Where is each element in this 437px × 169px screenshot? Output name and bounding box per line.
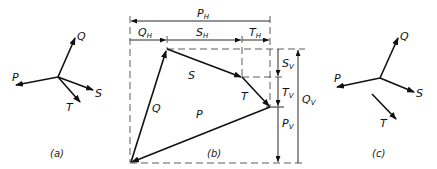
polygon-s-vector: [167, 49, 241, 77]
label-q: Q: [77, 30, 86, 43]
label-sv: SV: [282, 57, 295, 71]
label-ph: PH: [197, 7, 210, 21]
polygon-label-s: S: [188, 69, 195, 82]
label-sh: SH: [196, 26, 209, 40]
force-s-vector-c: [380, 78, 414, 92]
label-p-c: P: [334, 72, 341, 85]
polygon-label-q: Q: [152, 102, 161, 115]
caption-a: (a): [50, 148, 64, 159]
label-qv: QV: [302, 93, 317, 107]
label-tv: TV: [282, 86, 295, 100]
panel-b: PH QH SH TH SV TV PV QV Q S T P (b): [130, 7, 317, 163]
polygon-label-t: T: [241, 90, 249, 103]
label-pv: PV: [282, 117, 295, 131]
label-p: P: [12, 71, 19, 84]
label-t-c: T: [380, 117, 388, 130]
label-q-c: Q: [400, 30, 409, 43]
label-qh: QH: [138, 26, 153, 40]
label-th: TH: [249, 26, 262, 40]
panel-a: Q P S T (a): [12, 30, 102, 159]
label-t: T: [66, 101, 74, 114]
label-s-c: S: [416, 87, 423, 100]
force-t-vector-c: [372, 94, 396, 119]
caption-c: (c): [372, 148, 385, 159]
force-q-vector-c: [380, 38, 398, 78]
label-s: S: [95, 87, 102, 100]
panel-c: Q P S T (c): [334, 30, 423, 159]
force-p-vector: [16, 77, 58, 85]
force-diagram-figure: Q P S T (a) PH QH SH TH SV TV PV QV: [0, 0, 437, 169]
force-p-vector-c: [337, 78, 380, 87]
polygon-label-p: P: [196, 108, 203, 121]
caption-b: (b): [207, 148, 221, 159]
polygon-q-vector: [131, 51, 166, 162]
force-q-vector: [58, 38, 75, 77]
